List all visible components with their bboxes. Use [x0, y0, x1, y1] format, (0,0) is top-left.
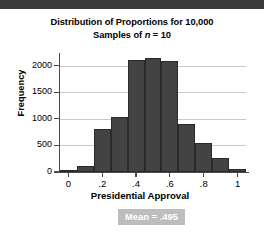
chart-title-line-1: Distribution of Proportions for 10,000 [51, 17, 214, 27]
y-axis-tick [54, 92, 60, 93]
scan-top-band [0, 0, 264, 9]
y-axis-tick [54, 65, 60, 66]
chart-title-line-2-suffix: = 10 [150, 30, 171, 40]
x-axis-tick [135, 172, 136, 177]
x-axis-tick-label: 0 [55, 178, 81, 189]
y-axis-tick [54, 118, 60, 119]
chart-title-line-2-prefix: Samples of [93, 30, 145, 40]
x-axis-line [59, 172, 249, 173]
x-axis-tick-label: .8 [191, 178, 217, 189]
histogram-bar [145, 58, 162, 172]
y-axis-tick [54, 145, 60, 146]
x-axis-tick [203, 172, 204, 177]
histogram-bars [60, 55, 246, 172]
histogram-bar [128, 60, 145, 172]
histogram-bar [178, 124, 195, 172]
x-axis-tick-label: .4 [123, 178, 149, 189]
x-axis-tick-label: .6 [157, 178, 183, 189]
x-axis-tick-label: 1 [225, 178, 251, 189]
x-axis-tick [169, 172, 170, 177]
plot-area [60, 55, 246, 172]
x-axis-tick [102, 172, 103, 177]
x-axis-tick-label: .2 [89, 178, 115, 189]
chart-title: Distribution of Proportions for 10,000 S… [0, 16, 264, 41]
y-axis-title: Frequency [16, 53, 26, 133]
x-axis-tick [68, 172, 69, 177]
histogram-figure: Distribution of Proportions for 10,000 S… [0, 0, 264, 238]
x-axis-tick [237, 172, 238, 177]
mean-annotation-badge: Mean = .495 [118, 209, 185, 225]
histogram-bar [195, 143, 212, 172]
x-axis-title: Presidential Approval [30, 190, 250, 201]
y-axis-tick-label: 500 [12, 139, 52, 149]
y-axis-line [59, 53, 60, 173]
histogram-bar [94, 129, 111, 172]
histogram-bar [212, 158, 229, 172]
y-axis-tick [54, 171, 60, 172]
histogram-bar [161, 61, 178, 172]
y-axis-tick-label: 0 [12, 166, 52, 176]
histogram-bar [111, 117, 128, 172]
